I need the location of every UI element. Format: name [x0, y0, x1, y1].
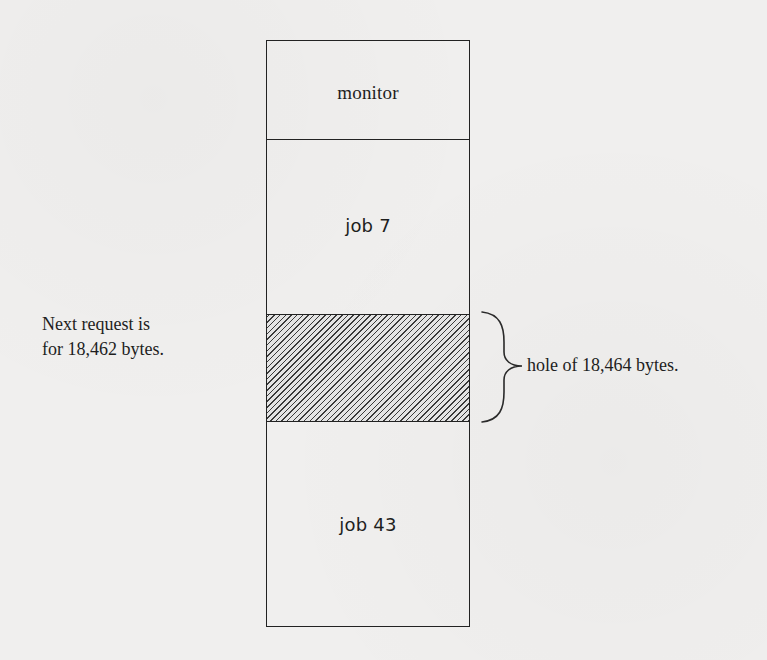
- segment-job-7: job 7: [267, 140, 469, 314]
- next-request-note: Next request is for 18,462 bytes.: [42, 312, 164, 362]
- next-request-line-2: for 18,462 bytes.: [42, 337, 164, 362]
- memory-box: monitor job 7 job 43: [266, 40, 470, 627]
- segment-job-43: job 43: [267, 422, 469, 626]
- segment-monitor-label: monitor: [337, 82, 399, 104]
- segment-monitor: monitor: [267, 41, 469, 140]
- segment-job-43-label: job 43: [339, 514, 396, 535]
- next-request-line-1: Next request is: [42, 312, 164, 337]
- segment-job-7-label: job 7: [345, 215, 391, 236]
- right-brace-icon: [478, 308, 528, 426]
- memory-diagram: monitor job 7 job 43 Next request is for…: [0, 0, 767, 660]
- hole-size-label: hole of 18,464 bytes.: [527, 355, 678, 376]
- segment-hole-hatched: [267, 314, 469, 422]
